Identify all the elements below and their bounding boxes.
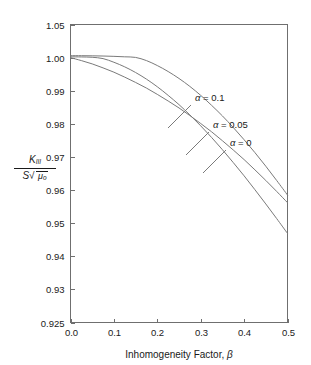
radical-sign: √ bbox=[29, 171, 35, 182]
y-axis-title: KIII S√μo bbox=[8, 155, 62, 182]
data-curves bbox=[71, 56, 288, 234]
series-annotations: α = 0.1α = 0.05α = 0 bbox=[195, 92, 252, 148]
annotation-leader-line bbox=[186, 132, 209, 155]
data-curve-line bbox=[71, 58, 288, 203]
x-tick-label: 0.4 bbox=[238, 327, 251, 338]
radicand: μo bbox=[36, 171, 48, 182]
y-tick-label: 0.99 bbox=[46, 86, 65, 97]
y-axis-title-numerator: KIII bbox=[8, 155, 62, 167]
figure-container: 0.9250.930.940.950.960.970.980.991.001.0… bbox=[0, 0, 311, 365]
annotation-leader-line bbox=[203, 150, 226, 173]
fraction-rule bbox=[14, 168, 56, 169]
data-curve-line bbox=[71, 57, 288, 234]
y-tick-label: 0.96 bbox=[46, 185, 65, 196]
chart-plot: 0.9250.930.940.950.960.970.980.991.001.0… bbox=[0, 0, 311, 365]
sqrt-icon: √μo bbox=[29, 171, 48, 182]
x-tick-label: 0.2 bbox=[151, 327, 164, 338]
y-tick-label: 0.95 bbox=[46, 218, 65, 229]
x-axis-title-text: Inhomogeneity Factor, β bbox=[125, 349, 233, 360]
y-tick-label: 0.94 bbox=[46, 251, 65, 262]
mu-subscript: o bbox=[43, 175, 47, 182]
y-tick-label: 1.00 bbox=[46, 53, 65, 64]
x-tick-label: 0.1 bbox=[108, 327, 121, 338]
series-annotation-label: α = 0 bbox=[230, 137, 252, 148]
series-annotation-label: α = 0.1 bbox=[195, 92, 224, 103]
series-annotation-label: α = 0.05 bbox=[213, 119, 248, 130]
x-tick-label: 0.5 bbox=[282, 327, 295, 338]
x-axis-ticks: 0.00.10.20.30.40.5 bbox=[65, 319, 295, 338]
data-curve-line bbox=[71, 56, 288, 195]
x-axis-title: Inhomogeneity Factor, β bbox=[125, 349, 233, 360]
y-tick-label: 0.98 bbox=[46, 119, 65, 130]
k-subscript: III bbox=[36, 158, 41, 165]
x-tick-label: 0.3 bbox=[195, 327, 208, 338]
k-symbol: K bbox=[29, 154, 36, 165]
s-symbol: S bbox=[22, 170, 29, 181]
y-tick-label: 0.93 bbox=[46, 284, 65, 295]
y-tick-label: 1.05 bbox=[46, 20, 65, 31]
y-tick-label: 0.925 bbox=[41, 318, 65, 329]
y-axis-title-denominator: S√μo bbox=[8, 170, 62, 182]
annotation-leader-lines bbox=[168, 105, 226, 173]
x-tick-label: 0.0 bbox=[65, 327, 78, 338]
axes-frame bbox=[71, 25, 288, 323]
